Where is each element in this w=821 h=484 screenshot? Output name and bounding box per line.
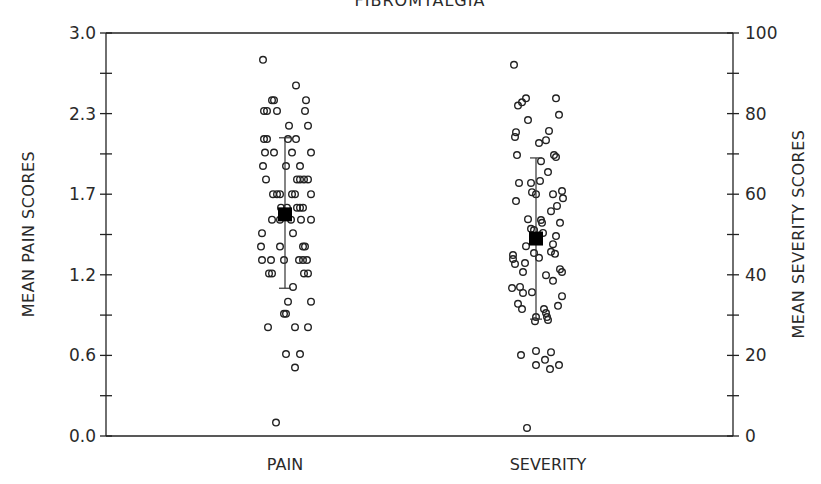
- data-point: [286, 122, 293, 129]
- data-point: [514, 152, 521, 159]
- data-point: [285, 136, 292, 143]
- left-tick-label: 2.3: [69, 104, 96, 124]
- data-point: [258, 243, 265, 250]
- data-point: [285, 298, 292, 305]
- data-point: [268, 257, 275, 264]
- data-point: [550, 241, 557, 248]
- data-point: [523, 243, 530, 250]
- data-point: [524, 425, 531, 432]
- data-point: [260, 57, 267, 64]
- data-point: [559, 293, 566, 300]
- data-point: [546, 128, 553, 135]
- data-point: [536, 140, 543, 147]
- data-point: [550, 191, 557, 198]
- data-point: [277, 243, 284, 250]
- data-point: [308, 216, 315, 223]
- data-point: [554, 203, 561, 210]
- data-point: [553, 95, 560, 102]
- data-point: [262, 149, 269, 156]
- data-point: [522, 260, 529, 267]
- data-point: [543, 137, 550, 144]
- data-point: [297, 351, 304, 358]
- data-point: [553, 233, 560, 240]
- data-point: [292, 364, 299, 371]
- data-point: [547, 366, 554, 373]
- left-tick-label: 1.7: [69, 184, 96, 204]
- data-point: [516, 180, 523, 187]
- data-point: [529, 289, 536, 296]
- data-point: [557, 220, 564, 227]
- scatter-chart: FIBROMYALGIA 0.0 0.6 1.2 1.7 2.3 3.0 0 2…: [0, 0, 821, 484]
- data-point: [523, 95, 530, 102]
- data-point: [259, 230, 266, 237]
- data-point: [293, 82, 300, 89]
- data-point: [533, 348, 540, 355]
- right-tick-label: 40: [745, 265, 767, 285]
- data-point: [271, 149, 278, 156]
- data-point: [302, 108, 309, 115]
- data-point: [559, 188, 566, 195]
- data-point: [511, 62, 518, 69]
- chart-title-group: FIBROMYALGIA: [355, 0, 486, 10]
- data-point: [513, 198, 520, 205]
- data-point: [283, 163, 290, 170]
- data-point: [533, 362, 540, 369]
- data-point: [520, 290, 527, 297]
- right-tick-label: 60: [745, 184, 767, 204]
- data-point: [308, 298, 315, 305]
- data-point: [303, 97, 310, 104]
- left-tick-label: 0.6: [69, 345, 96, 365]
- data-point: [298, 216, 305, 223]
- right-axis-title: MEAN SEVERITY SCORES: [789, 129, 808, 338]
- data-point: [305, 176, 312, 183]
- right-tick-label: 100: [745, 23, 777, 43]
- data-point: [525, 216, 532, 223]
- data-point: [281, 257, 288, 264]
- mean-marker: [529, 232, 543, 246]
- data-point: [260, 163, 267, 170]
- data-point: [293, 136, 300, 143]
- data-point: [259, 257, 266, 264]
- data-point: [290, 284, 297, 291]
- data-point: [518, 352, 525, 359]
- category-label-pain: PAIN: [267, 455, 303, 474]
- data-point: [550, 278, 557, 285]
- data-point: [308, 149, 315, 156]
- data-point: [290, 230, 297, 237]
- data-point: [269, 216, 276, 223]
- data-point: [520, 269, 527, 276]
- right-tick-label: 80: [745, 104, 767, 124]
- data-point: [536, 255, 543, 262]
- data-point: [545, 169, 552, 176]
- data-point: [543, 272, 550, 279]
- data-point: [263, 176, 270, 183]
- data-point: [556, 362, 563, 369]
- data-point: [538, 158, 545, 165]
- data-point: [292, 324, 299, 331]
- data-point: [273, 419, 280, 426]
- data-point: [519, 306, 526, 313]
- right-tick-label: 20: [745, 345, 767, 365]
- data-point: [274, 108, 281, 115]
- chart-title: FIBROMYALGIA: [355, 0, 486, 10]
- left-tick-label: 0.0: [69, 426, 96, 446]
- data-point: [560, 195, 567, 202]
- data-point: [525, 117, 532, 124]
- data-point: [308, 191, 315, 198]
- left-tick-label: 3.0: [69, 23, 96, 43]
- data-point: [528, 180, 535, 187]
- left-tick-label: 1.2: [69, 265, 96, 285]
- right-tick-label: 0: [745, 426, 756, 446]
- left-tick-labels: 0.0 0.6 1.2 1.7 2.3 3.0: [69, 23, 96, 446]
- left-axis-title: MEAN PAIN SCORES: [19, 151, 38, 318]
- data-point: [297, 163, 304, 170]
- data-point: [265, 324, 272, 331]
- data-point: [509, 285, 516, 292]
- data-point: [548, 349, 555, 356]
- data-point: [305, 122, 312, 129]
- series-severity: [509, 62, 567, 432]
- data-point: [305, 270, 312, 277]
- series-pain: [258, 57, 315, 426]
- data-point: [556, 112, 563, 119]
- data-point: [283, 351, 290, 358]
